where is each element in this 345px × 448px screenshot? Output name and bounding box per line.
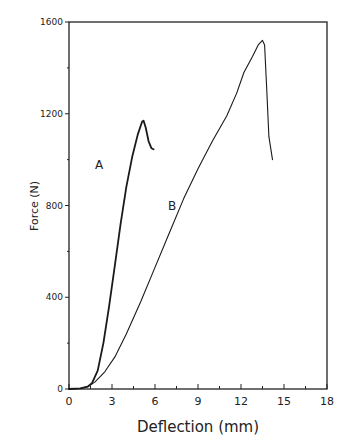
plot-border xyxy=(69,22,327,389)
x-tick-label: 15 xyxy=(277,395,291,408)
y-tick-label: 1200 xyxy=(40,109,63,119)
x-tick-label: 18 xyxy=(320,395,334,408)
y-tick-label: 1600 xyxy=(40,17,63,27)
data-curves xyxy=(69,40,273,389)
curve-label-b: B xyxy=(168,199,176,213)
curve-labels: AB xyxy=(95,158,176,213)
y-tick-label: 400 xyxy=(46,292,63,302)
plot-frame xyxy=(69,22,327,389)
y-axis-title: Force (N) xyxy=(28,181,41,231)
x-axis-title: Deflection (mm) xyxy=(137,418,259,436)
y-tick-label: 0 xyxy=(57,384,63,394)
x-tick-label: 12 xyxy=(234,395,248,408)
curve-b xyxy=(69,40,273,389)
curve-label-a: A xyxy=(95,158,104,172)
axis-tick-labels: 0369121518040080012001600 xyxy=(40,17,334,408)
x-tick-label: 0 xyxy=(66,395,73,408)
y-tick-label: 800 xyxy=(46,201,63,211)
curve-a xyxy=(69,121,154,389)
force-deflection-chart: 0369121518040080012001600 AB Deflection … xyxy=(0,0,345,448)
x-tick-label: 9 xyxy=(195,395,202,408)
x-tick-label: 6 xyxy=(152,395,159,408)
x-tick-label: 3 xyxy=(109,395,116,408)
